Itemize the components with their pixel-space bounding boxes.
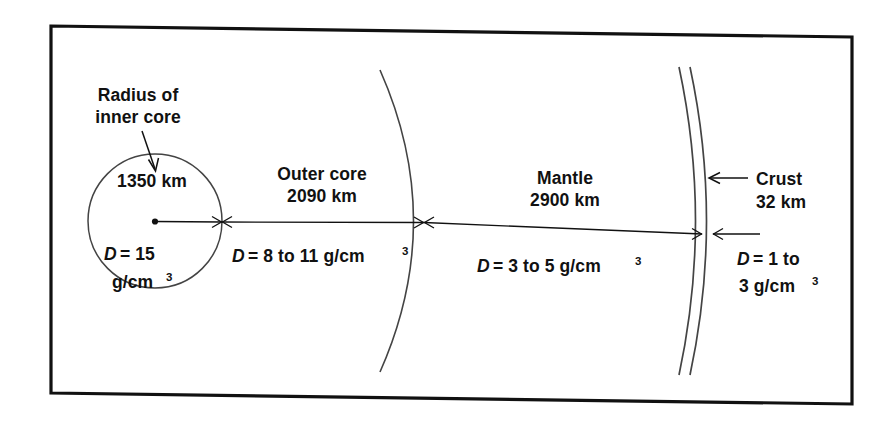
crust-thickness-label: 32 km xyxy=(756,192,806,212)
figure-border xyxy=(51,26,852,404)
mantle-density-symbol: D xyxy=(477,256,490,276)
mantle-thickness-label: 2900 km xyxy=(530,190,600,210)
crust-density-symbol: D xyxy=(737,249,750,269)
inner-core-density-value: = 15 xyxy=(120,244,155,264)
outer-core-thickness-label: 2090 km xyxy=(287,186,357,206)
outer-core-density-exponent: 3 xyxy=(402,245,409,257)
inner-core-density-exponent: 3 xyxy=(166,271,173,283)
figure-canvas: Radius of inner core 1350 km D = 15 g/cm… xyxy=(0,0,886,429)
mantle-name-label: Mantle xyxy=(537,168,593,188)
inner-core-density-unit: g/cm xyxy=(112,272,153,292)
crust-density-exponent: 3 xyxy=(812,275,819,287)
earth-cross-section-diagram: Radius of inner core 1350 km D = 15 g/cm… xyxy=(0,0,886,429)
crust-name-label: Crust xyxy=(756,169,802,189)
inner-core-thickness-label: 1350 km xyxy=(117,171,187,191)
crust-density-value-line1: = 1 to xyxy=(753,249,800,269)
mantle-density-exponent: 3 xyxy=(635,255,642,267)
crust-density-value-line2: 3 g/cm xyxy=(739,276,795,296)
outer-core-name-label: Outer core xyxy=(277,164,367,184)
outer-core-density-value: = 8 to 11 g/cm xyxy=(248,246,365,266)
radius-callout-line1: Radius of xyxy=(98,85,179,105)
outer-core-density-symbol: D xyxy=(232,246,245,266)
mantle-density-value: = 3 to 5 g/cm xyxy=(493,256,601,276)
inner-core-radius-line xyxy=(155,222,222,223)
inner-core-density-symbol: D xyxy=(104,244,117,264)
radius-callout-line2: inner core xyxy=(95,107,181,127)
outer-core-measure-line xyxy=(222,222,424,223)
